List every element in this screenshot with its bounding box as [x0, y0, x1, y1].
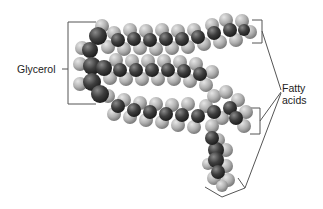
- fatty-acids-label-line1: Fatty: [282, 82, 307, 94]
- triglyceride-diagram: [0, 0, 323, 209]
- fatty-acids-label-line2: acids: [282, 94, 307, 106]
- fatty-acids-label: Fatty acids: [282, 82, 307, 106]
- molecule: [73, 13, 257, 192]
- glycerol-label: Glycerol: [17, 63, 56, 75]
